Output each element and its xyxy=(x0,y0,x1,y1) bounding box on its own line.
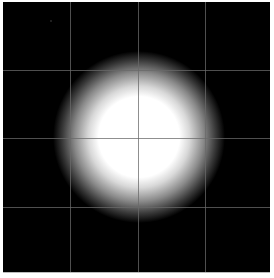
grid-line-horizontal-1 xyxy=(3,70,270,71)
noise-speck xyxy=(50,20,52,22)
image-frame xyxy=(3,2,270,272)
grid-line-vertical-1 xyxy=(70,2,71,272)
radial-glow xyxy=(53,51,225,223)
bottom-edge xyxy=(3,272,270,273)
grid-line-horizontal-3 xyxy=(3,207,270,208)
grid-line-vertical-2 xyxy=(138,2,139,272)
grid-line-horizontal-2 xyxy=(3,138,270,139)
grid-line-vertical-3 xyxy=(205,2,206,272)
